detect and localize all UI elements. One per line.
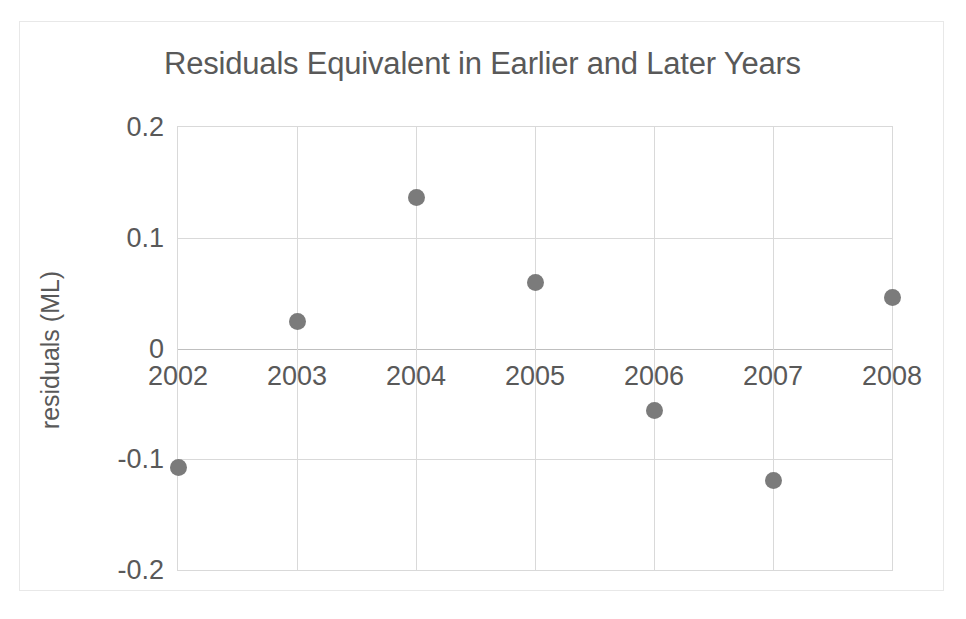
data-point [646,402,663,419]
x-axis-tick-label: 2004 [386,361,446,392]
data-point [884,289,901,306]
data-point [408,189,425,206]
plot-area: 0.20.10-0.1-0.22002200320042005200620072… [177,126,893,571]
y-axis-tick-label: 0.2 [126,112,164,143]
data-point [527,274,544,291]
gridline-vertical [535,127,536,570]
y-axis-tick-label: 0 [149,333,164,364]
chart-title: Residuals Equivalent in Earlier and Late… [20,46,945,82]
y-axis-tick-label: -0.1 [117,444,164,475]
gridline-vertical [654,127,655,570]
x-axis-tick-label: 2006 [624,361,684,392]
x-axis-tick-label: 2002 [148,361,208,392]
x-axis-tick-label: 2007 [743,361,803,392]
y-axis-tick-label: -0.2 [117,555,164,586]
data-point [289,313,306,330]
gridline-vertical [297,127,298,570]
x-axis-tick-label: 2008 [862,361,922,392]
y-axis-title: residuals (ML) [36,220,70,480]
chart-frame: Residuals Equivalent in Earlier and Late… [19,21,944,591]
x-axis-tick-label: 2003 [267,361,327,392]
x-axis-tick-label: 2005 [505,361,565,392]
data-point [765,472,782,489]
data-point [170,459,187,476]
y-axis-tick-label: 0.1 [126,222,164,253]
gridline-vertical [773,127,774,570]
